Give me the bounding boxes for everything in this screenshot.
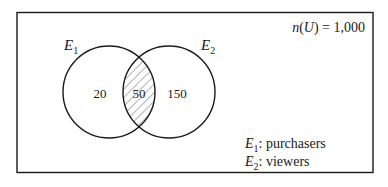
region-e1-only-value: 20 — [94, 86, 107, 101]
region-intersection-value: 50 — [133, 86, 146, 101]
universe-count-label: n(U) = 1,000 — [292, 20, 365, 36]
venn-diagram-figure: E1 E2 20 50 150 n(U) = 1,000 E1: purchas… — [0, 0, 388, 187]
region-e2-only-value: 150 — [167, 86, 187, 101]
